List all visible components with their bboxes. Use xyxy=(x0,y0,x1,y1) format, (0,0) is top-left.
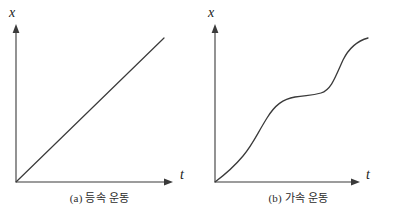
physics-position-time-figure: x t (a) 등속 운동 x t (b) 가속 운동 xyxy=(0,0,398,215)
panel-accelerated-motion: x t (b) 가속 운동 xyxy=(199,0,398,215)
x-axis-arrowhead-icon xyxy=(351,179,360,186)
x-axis-label: t xyxy=(180,168,184,182)
panel-caption: (a) 등속 운동 xyxy=(0,189,199,205)
data-curve-accelerated-motion xyxy=(215,38,368,182)
x-axis-label: t xyxy=(366,168,370,182)
y-axis-arrowhead-icon xyxy=(13,24,20,33)
panel-uniform-motion: x t (a) 등속 운동 xyxy=(0,0,199,215)
plot-area-accelerated-motion xyxy=(199,0,398,190)
x-axis-arrowhead-icon xyxy=(164,179,173,186)
panel-caption: (b) 가속 운동 xyxy=(199,189,398,205)
plot-area-uniform-motion xyxy=(0,0,199,190)
data-line-uniform-motion xyxy=(16,38,164,182)
y-axis-arrowhead-icon xyxy=(212,24,219,33)
y-axis-label: x xyxy=(9,6,15,20)
y-axis-label: x xyxy=(208,6,214,20)
